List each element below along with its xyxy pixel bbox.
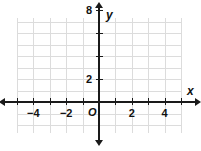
x-axis-tick xyxy=(66,98,67,105)
x-axis-tick xyxy=(132,98,133,105)
y-axis-up-arrow-icon xyxy=(95,2,103,8)
x-axis-tick-label: 2 xyxy=(122,108,142,119)
x-axis-tick xyxy=(181,98,182,105)
origin-label: O xyxy=(88,107,97,118)
x-axis-tick xyxy=(165,98,166,105)
coordinate-plane: −4−22428 x y O xyxy=(0,0,201,151)
x-axis-right-arrow-icon xyxy=(195,98,201,106)
y-axis-down-arrow-icon xyxy=(95,140,103,146)
x-axis-tick-label: 4 xyxy=(155,108,175,119)
y-axis-tick xyxy=(96,10,103,11)
x-axis-left-arrow-icon xyxy=(0,98,5,106)
x-axis-tick xyxy=(50,98,51,105)
x-axis-tick xyxy=(33,98,34,105)
y-axis-name: y xyxy=(106,9,113,21)
y-axis-tick-label: 8 xyxy=(72,5,92,16)
axes xyxy=(0,0,201,151)
y-axis-tick xyxy=(96,33,103,34)
x-axis-tick xyxy=(17,98,18,105)
y-axis-tick-label: 2 xyxy=(72,74,92,85)
x-axis-tick-label: −2 xyxy=(56,108,76,119)
x-axis-tick xyxy=(148,98,149,105)
x-axis-tick xyxy=(115,98,116,105)
y-axis-tick xyxy=(96,79,103,80)
x-axis-tick-label: −4 xyxy=(23,108,43,119)
y-axis-line xyxy=(98,8,100,140)
x-axis-tick xyxy=(83,98,84,105)
y-axis-tick xyxy=(96,56,103,57)
x-axis-name: x xyxy=(187,85,194,97)
